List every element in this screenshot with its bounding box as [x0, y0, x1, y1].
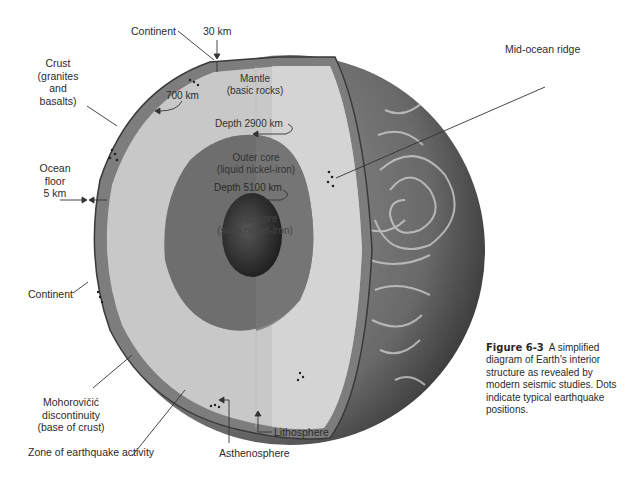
- label-zone-earthquake-activity: Zone of earthquake activity: [28, 446, 154, 459]
- label-continent-top: Continent: [131, 25, 176, 38]
- label-depth-700km: 700 km: [166, 90, 199, 102]
- label-asthenosphere: Asthenosphere: [219, 447, 290, 460]
- label-lithosphere: Lithosphere: [274, 426, 329, 439]
- label-mid-ocean-ridge: Mid-ocean ridge: [505, 43, 580, 56]
- label-continent-left: Continent: [28, 288, 73, 301]
- label-depth-30km: 30 km: [203, 25, 232, 38]
- figure-caption: Figure 6-3 A simplified diagram of Earth…: [486, 342, 625, 416]
- label-mantle: Mantle (basic rocks): [220, 73, 290, 97]
- earth-interior-diagram: Continent 30 km Crust (granites and basa…: [0, 0, 625, 479]
- label-ocean-floor: Ocean floor 5 km: [34, 162, 76, 200]
- label-inner-core: Inner core (solid nickel-iron): [212, 213, 298, 237]
- label-crust: Crust (granites and basalts): [28, 57, 88, 107]
- label-outer-core: Outer core (liquid nickel-iron): [210, 152, 302, 176]
- label-depth-2900km: Depth 2900 km: [215, 118, 283, 130]
- figure-number: Figure 6-3: [486, 342, 544, 353]
- label-depth-5100km: Depth 5100 km: [214, 182, 282, 194]
- label-mohorovicic: Mohorovičić discontinuity (base of crust…: [30, 396, 112, 434]
